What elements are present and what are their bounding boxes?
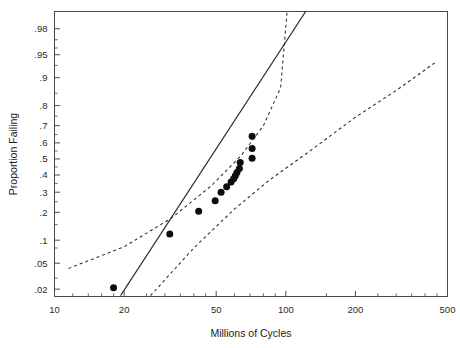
y-tick-label: .98	[34, 23, 47, 34]
data-point	[249, 155, 256, 162]
y-tick-label: .4	[40, 169, 48, 180]
y-tick-label: .8	[40, 100, 48, 111]
fitted-line	[121, 0, 316, 296]
data-point	[237, 159, 244, 166]
plot-svg: 102050100200500 .98.95.9.8.7.6.5.4.3.2.1…	[0, 0, 460, 348]
plot-frame	[55, 12, 448, 297]
y-tick-label: .05	[34, 258, 47, 269]
data-point	[110, 284, 117, 291]
x-axis-ticks	[55, 291, 448, 297]
y-axis-ticks	[55, 29, 61, 289]
y-tick-label: .2	[40, 207, 48, 218]
x-tick-label: 100	[278, 304, 294, 315]
data-point	[212, 197, 219, 204]
y-axis-tick-labels: .98.95.9.8.7.6.5.4.3.2.1.05.02	[34, 23, 47, 294]
data-point	[166, 231, 173, 238]
plot-frame-group	[55, 12, 448, 297]
x-axis-tick-labels: 102050100200500	[49, 304, 455, 315]
x-tick-label: 50	[211, 304, 222, 315]
x-tick-label: 500	[440, 304, 456, 315]
x-axis-title: Millions of Cycles	[210, 327, 291, 339]
x-tick-label: 200	[348, 304, 364, 315]
data-point	[195, 208, 202, 215]
x-tick-label: 10	[49, 304, 60, 315]
y-tick-label: .02	[34, 284, 47, 295]
data-point	[236, 165, 243, 172]
y-tick-label: .3	[40, 187, 48, 198]
data-point	[249, 145, 256, 152]
y-tick-label: .1	[40, 235, 48, 246]
scatter-points	[110, 133, 256, 292]
probability-plot-chart: 102050100200500 .98.95.9.8.7.6.5.4.3.2.1…	[0, 0, 460, 348]
y-axis-title: Proportion Failing	[7, 113, 19, 195]
y-tick-label: .7	[40, 120, 48, 131]
x-tick-label: 20	[119, 304, 130, 315]
confidence-band-line	[150, 63, 434, 296]
data-point	[218, 189, 225, 196]
y-tick-label: .5	[40, 153, 48, 164]
data-series-group	[69, 0, 435, 296]
y-tick-label: .95	[34, 49, 47, 60]
data-point	[249, 133, 256, 140]
y-tick-label: .9	[40, 72, 48, 83]
y-tick-label: .6	[40, 137, 48, 148]
